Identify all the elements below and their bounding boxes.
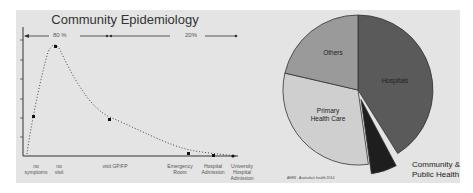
xlabel-no-visit: no visit (52, 163, 66, 175)
data-markers (32, 45, 235, 158)
xlabel-no-symptoms: no symptoms (22, 163, 50, 175)
epidemiology-curve (27, 45, 236, 156)
xlabel-emergency-room: Emergency Room (165, 163, 195, 175)
source-citation: AIHW - Australia's health 2014 (287, 176, 334, 180)
xlabel-visit-gp: visit GP/FP (95, 163, 135, 169)
xlabel-university-hospital-admission: University Hospital Admission (227, 163, 257, 181)
label-20-percent: 20% (185, 32, 197, 38)
pie-label-others: Others (318, 49, 348, 57)
pie-label-primary-2: Health Care (305, 115, 351, 123)
pie-label-community-2: Public Health (412, 170, 459, 180)
label-80-percent: 80 % (53, 32, 67, 38)
pie-label-hospitals: Hospitals (375, 77, 415, 85)
xlabel-hospital-admission: Hospital Admission (198, 163, 228, 175)
line-chart-axes (20, 27, 238, 156)
pie-chart (283, 15, 433, 174)
pie-label-community-1: Community & (412, 160, 460, 170)
pie-label-primary-1: Primary (305, 107, 351, 115)
